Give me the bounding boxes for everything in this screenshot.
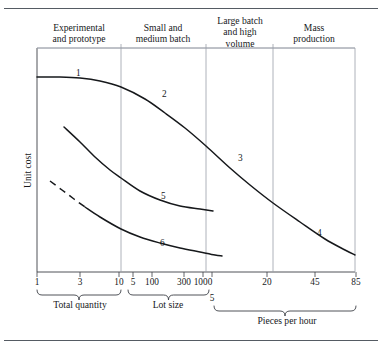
curve-label-6: 6: [160, 238, 165, 248]
series-3-solid: [85, 207, 222, 256]
group-label-2: Lot size: [108, 299, 228, 310]
curve-label-3: 3: [238, 153, 243, 163]
curve-label-2: 2: [162, 89, 167, 99]
series-1: [37, 77, 355, 255]
curve-label-4: 4: [317, 228, 322, 238]
x-tick-label-11: 85: [341, 277, 371, 287]
curve-label-1: 1: [76, 68, 81, 78]
plot-area: [0, 0, 382, 346]
curve-label-5: 5: [161, 191, 166, 201]
group-label-3: Pieces per hour: [227, 315, 347, 326]
x-tick-label-9: 20: [252, 277, 282, 287]
x-tick-label-5: 100: [137, 277, 167, 287]
x-tick-label-10: 45: [300, 277, 330, 287]
x-tick-label-7: 1000: [188, 277, 218, 287]
x-tick-label-1: 1: [22, 277, 52, 287]
series-3-dashed: [50, 181, 85, 207]
figure-container: Experimental and prototypeSmall and medi…: [0, 0, 382, 346]
x-tick-label-2: 3: [65, 277, 95, 287]
series-2: [64, 127, 213, 211]
